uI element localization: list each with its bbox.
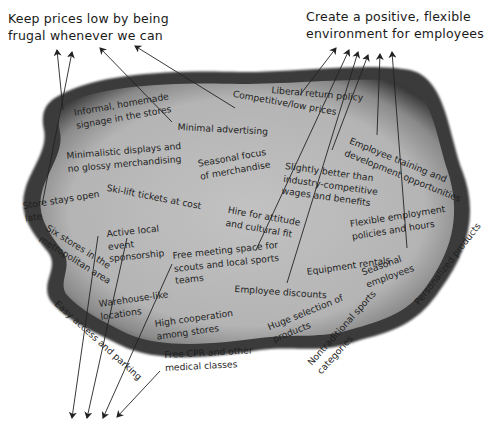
goal-frugal-line-1: Keep prices low by being	[8, 10, 169, 27]
activity-active-sponsorship: Active local event sponsorship	[106, 222, 165, 265]
goal-employees: Create a positive, flexible environment …	[306, 8, 484, 42]
goal-employees-line-1: Create a positive, flexible	[306, 8, 484, 25]
activity-free-cpr: Free CPR and other medical classes	[164, 344, 254, 374]
goal-frugal: Keep prices low by being frugal whenever…	[8, 10, 169, 44]
goal-frugal-line-2: frugal whenever we can	[8, 27, 169, 44]
goal-employees-line-2: environment for employees	[306, 25, 484, 42]
